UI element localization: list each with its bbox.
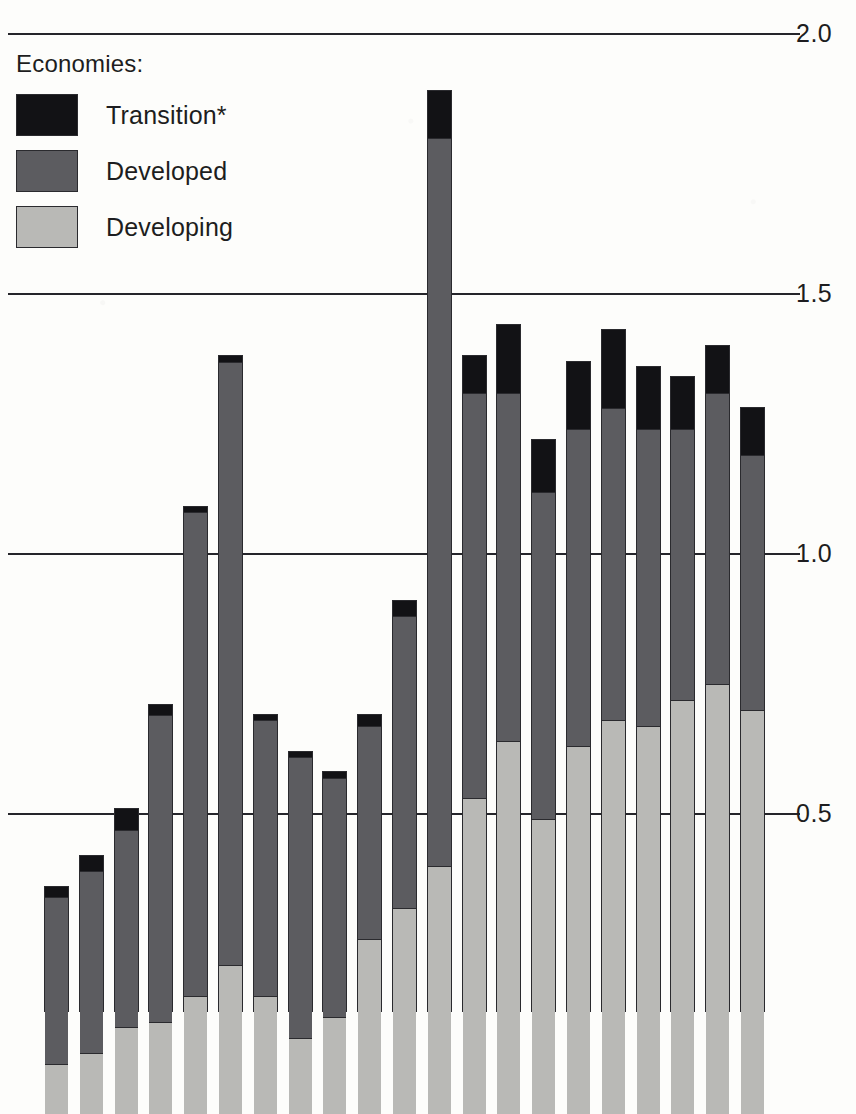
legend-item-developing[interactable]: Developing bbox=[16, 204, 233, 250]
stacked-bar[interactable] bbox=[566, 361, 591, 1012]
bar-segment-developing bbox=[149, 1022, 172, 1114]
stacked-bar[interactable] bbox=[44, 886, 69, 1012]
bar-segment-developed bbox=[219, 362, 242, 965]
legend-swatch-transition-icon bbox=[16, 94, 78, 136]
stacked-bar[interactable] bbox=[740, 407, 765, 1012]
bar-segment-developed bbox=[428, 138, 451, 866]
legend-label-developing: Developing bbox=[106, 213, 233, 242]
bar-segment-developing bbox=[463, 798, 486, 1114]
bar-segment-developing bbox=[184, 996, 207, 1114]
stacked-bar[interactable] bbox=[183, 506, 208, 1012]
bar-segment-developing bbox=[428, 866, 451, 1114]
bar-segment-developed bbox=[80, 871, 103, 1053]
stacked-bar[interactable] bbox=[636, 366, 661, 1012]
bar-segment-developed bbox=[706, 393, 729, 684]
bar-segment-developed bbox=[149, 715, 172, 1022]
bar-segment-transition bbox=[637, 367, 660, 429]
stacked-bar[interactable] bbox=[427, 90, 452, 1012]
axis-tick-label: 1.0 bbox=[796, 539, 832, 568]
bar-segment-developed bbox=[637, 429, 660, 725]
bar-segment-transition bbox=[80, 856, 103, 872]
bar-segment-transition bbox=[532, 440, 555, 492]
bar-segment-transition bbox=[741, 408, 764, 455]
stacked-bar[interactable] bbox=[705, 345, 730, 1012]
bar-segment-developing bbox=[497, 741, 520, 1114]
stacked-bar[interactable] bbox=[288, 751, 313, 1012]
bar-segment-transition bbox=[149, 705, 172, 715]
bar-segment-developing bbox=[289, 1038, 312, 1114]
stacked-bar[interactable] bbox=[114, 808, 139, 1012]
bar-segment-developing bbox=[115, 1027, 138, 1114]
legend-label-transition: Transition* bbox=[106, 101, 227, 130]
bar-segment-transition bbox=[706, 346, 729, 393]
bar-segment-transition bbox=[602, 330, 625, 408]
bar-segment-developing bbox=[80, 1053, 103, 1114]
bar-segment-transition bbox=[671, 377, 694, 429]
bar-segment-transition bbox=[428, 91, 451, 138]
gridline-1-5 bbox=[8, 293, 778, 295]
stacked-bar[interactable] bbox=[148, 704, 173, 1012]
stacked-bar[interactable] bbox=[601, 329, 626, 1012]
legend-title: Economies: bbox=[16, 50, 233, 78]
axis-tick-label: 2.0 bbox=[796, 19, 832, 48]
axis-tick-label: 0.5 bbox=[796, 799, 832, 828]
stacked-bar[interactable] bbox=[253, 714, 278, 1012]
bar-segment-transition bbox=[463, 356, 486, 392]
stacked-bar[interactable] bbox=[392, 600, 417, 1012]
gridline-1 bbox=[8, 553, 778, 555]
bar-segment-developing bbox=[741, 710, 764, 1114]
axis-tick-label: 1.5 bbox=[796, 279, 832, 308]
bar-segment-developed bbox=[358, 726, 381, 939]
bar-segment-transition bbox=[358, 715, 381, 725]
bar-segment-developed bbox=[254, 720, 277, 996]
bar-segment-developing bbox=[671, 700, 694, 1114]
legend-item-developed[interactable]: Developed bbox=[16, 148, 233, 194]
bar-segment-developed bbox=[45, 897, 68, 1063]
bar-segment-transition bbox=[45, 887, 68, 897]
bar-segment-developing bbox=[254, 996, 277, 1114]
bar-segment-transition bbox=[393, 601, 416, 617]
stacked-bar[interactable] bbox=[462, 355, 487, 1012]
bar-segment-developing bbox=[532, 819, 555, 1114]
legend-item-transition[interactable]: Transition* bbox=[16, 92, 233, 138]
bar-segment-developing bbox=[323, 1017, 346, 1114]
bar-segment-developed bbox=[289, 757, 312, 1038]
bar-segment-developed bbox=[532, 492, 555, 820]
bar-segment-developing bbox=[358, 939, 381, 1114]
bar-segment-developing bbox=[45, 1064, 68, 1114]
bar-segment-transition bbox=[567, 362, 590, 430]
legend-swatch-developing-icon bbox=[16, 206, 78, 248]
bar-segment-developing bbox=[393, 908, 416, 1114]
bar-segment-developed bbox=[671, 429, 694, 699]
bar-segment-developing bbox=[602, 720, 625, 1114]
bar-segment-developed bbox=[602, 408, 625, 720]
stacked-bar[interactable] bbox=[670, 376, 695, 1012]
legend-swatch-developed-icon bbox=[16, 150, 78, 192]
gridline-2 bbox=[8, 33, 778, 35]
bar-segment-transition bbox=[115, 809, 138, 830]
stacked-bar[interactable] bbox=[357, 714, 382, 1012]
legend-label-developed: Developed bbox=[106, 157, 227, 186]
bar-segment-transition bbox=[497, 325, 520, 393]
bar-segment-developed bbox=[323, 778, 346, 1017]
stacked-bar[interactable] bbox=[496, 324, 521, 1012]
bar-segment-developed bbox=[393, 616, 416, 907]
bar-segment-developing bbox=[219, 965, 242, 1114]
bar-segment-developed bbox=[463, 393, 486, 799]
stacked-bar[interactable] bbox=[218, 355, 243, 1012]
stacked-bar[interactable] bbox=[322, 771, 347, 1012]
bar-segment-developed bbox=[741, 455, 764, 710]
bar-segment-developed bbox=[184, 512, 207, 996]
bar-segment-developing bbox=[637, 726, 660, 1114]
bar-segment-developed bbox=[115, 830, 138, 1028]
bar-segment-developed bbox=[567, 429, 590, 746]
stacked-bar[interactable] bbox=[79, 855, 104, 1012]
bar-segment-developing bbox=[706, 684, 729, 1114]
stacked-bar[interactable] bbox=[531, 439, 556, 1012]
chart-legend: Economies: Transition* Developed Develop… bbox=[16, 50, 233, 260]
bar-segment-developing bbox=[567, 746, 590, 1114]
bar-segment-developed bbox=[497, 393, 520, 741]
